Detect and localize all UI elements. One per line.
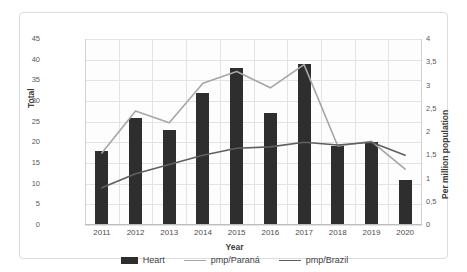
x-axis-title: Year — [20, 242, 449, 252]
y-axis-right-tick-label: 4 — [426, 35, 452, 43]
legend-item-label: pmp/Brazil — [306, 255, 349, 265]
legend-item-label: Heart — [143, 255, 165, 265]
y-axis-left-tick-label: 40 — [14, 56, 40, 64]
y-axis-right-tick-label: 3 — [426, 82, 452, 90]
y-axis-left-tick-label: 0 — [14, 221, 40, 229]
y-axis-left-tick-label: 5 — [14, 200, 40, 208]
y-axis-left-tick-label: 20 — [14, 138, 40, 146]
legend-bar-swatch-icon — [121, 257, 138, 264]
legend-line-swatch-icon — [279, 260, 301, 261]
y-axis-right-tick-label: 1 — [426, 175, 452, 183]
gridline-horizontal — [85, 225, 422, 226]
line-series — [102, 65, 405, 170]
legend-item[interactable]: Heart — [121, 255, 165, 265]
chart-container: Total Per million population Year 051015… — [19, 12, 448, 259]
line-series-layer — [85, 39, 422, 225]
y-axis-left-tick-label: 10 — [14, 180, 40, 188]
y-axis-left-tick-label: 25 — [14, 118, 40, 126]
x-axis-line — [85, 224, 422, 225]
legend-item-label: pmp/Paraná — [211, 255, 260, 265]
y-axis-right-tick-label: 2,5 — [426, 105, 452, 113]
plot-area — [85, 39, 422, 225]
y-axis-left-tick-label: 30 — [14, 97, 40, 105]
y-axis-right-tick-label: 0 — [426, 221, 452, 229]
chart-legend: Heartpmp/Paranápmp/Brazil — [20, 255, 449, 265]
legend-item[interactable]: pmp/Paraná — [184, 255, 260, 265]
y-axis-right-tick-label: 2 — [426, 128, 452, 136]
y-axis-right-tick-label: 0,5 — [426, 198, 452, 206]
y-axis-left-tick-label: 15 — [14, 159, 40, 167]
y-axis-right-tick-label: 3,5 — [426, 58, 452, 66]
legend-line-swatch-icon — [184, 260, 206, 261]
legend-item[interactable]: pmp/Brazil — [279, 255, 349, 265]
x-axis-tick-label: 2020 — [385, 229, 425, 237]
y-axis-left-tick-label: 45 — [14, 35, 40, 43]
line-series — [102, 142, 405, 188]
y-axis-right-tick-label: 1,5 — [426, 151, 452, 159]
y-axis-left-tick-label: 35 — [14, 76, 40, 84]
